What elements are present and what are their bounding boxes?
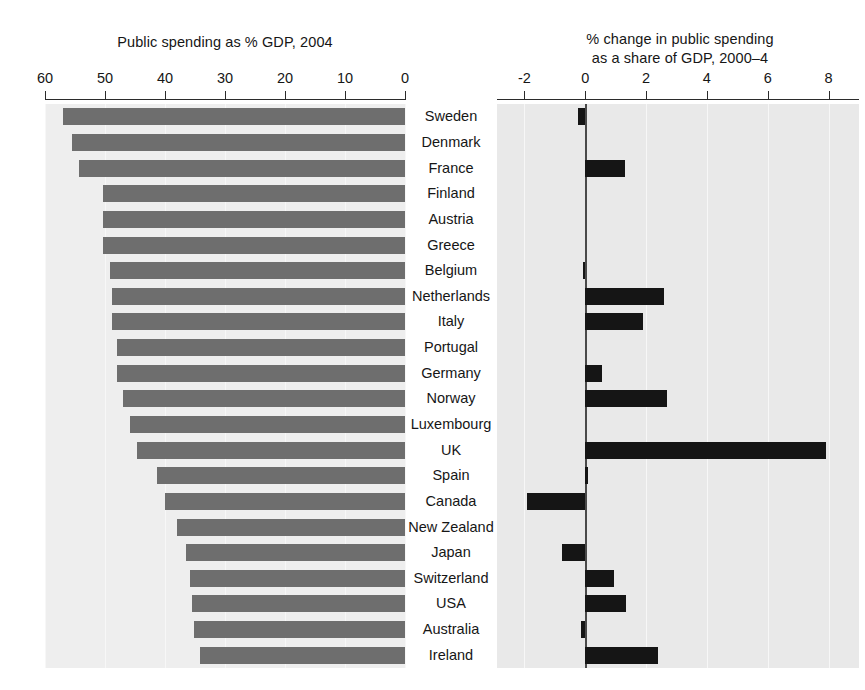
bar-left-spain xyxy=(157,467,405,484)
right-gridline xyxy=(829,104,830,668)
category-label-canada: Canada xyxy=(408,493,494,510)
bar-right-japan xyxy=(562,544,585,561)
left-tick-label: 20 xyxy=(277,70,293,86)
category-label-spain: Spain xyxy=(408,467,494,484)
category-label-italy: Italy xyxy=(408,313,494,330)
category-label-ireland: Ireland xyxy=(408,647,494,664)
category-label-usa: USA xyxy=(408,595,494,612)
right-tick-label: 2 xyxy=(642,70,650,86)
bar-right-italy xyxy=(585,313,643,330)
right-panel-title: % change in public spending as a share o… xyxy=(495,30,865,68)
right-gridline xyxy=(524,104,525,668)
category-axis-labels: SwedenDenmarkFranceFinlandAustriaGreeceB… xyxy=(408,104,494,668)
bar-left-denmark xyxy=(72,134,405,151)
bar-left-belgium xyxy=(110,262,405,279)
bar-right-germany xyxy=(585,365,602,382)
bar-left-norway xyxy=(123,390,405,407)
right-tick-label: 8 xyxy=(825,70,833,86)
right-gridline xyxy=(768,104,769,668)
category-label-uk: UK xyxy=(408,442,494,459)
bar-left-australia xyxy=(194,621,405,638)
bar-right-usa xyxy=(585,595,626,612)
category-label-denmark: Denmark xyxy=(408,134,494,151)
category-label-norway: Norway xyxy=(408,390,494,407)
bar-left-netherlands xyxy=(112,288,405,305)
right-tick-label: 0 xyxy=(581,70,589,86)
bar-left-portugal xyxy=(117,339,405,356)
bar-right-sweden xyxy=(578,108,586,125)
bar-right-switzerland xyxy=(585,570,614,587)
left-tick-mark xyxy=(345,91,346,100)
left-panel-title: Public spending as % GDP, 2004 xyxy=(30,33,420,52)
bar-left-usa xyxy=(192,595,405,612)
left-tick-mark xyxy=(285,91,286,100)
figure-root: Public spending as % GDP, 2004 % change … xyxy=(0,0,865,690)
category-label-australia: Australia xyxy=(408,621,494,638)
bar-left-germany xyxy=(117,365,405,382)
left-tick-mark xyxy=(405,91,406,100)
bar-right-spain xyxy=(585,467,587,484)
bar-left-greece xyxy=(103,237,405,254)
bar-right-norway xyxy=(585,390,667,407)
bar-left-uk xyxy=(137,442,405,459)
right-tick-mark xyxy=(646,91,647,100)
left-tick-mark xyxy=(165,91,166,100)
bar-right-belgium xyxy=(583,262,585,279)
right-tick-label: 4 xyxy=(703,70,711,86)
category-label-luxembourg: Luxembourg xyxy=(408,416,494,433)
right-tick-mark xyxy=(829,91,830,100)
bar-left-luxembourg xyxy=(130,416,405,433)
category-label-switzerland: Switzerland xyxy=(408,570,494,587)
right-tick-label: 6 xyxy=(764,70,772,86)
bar-right-australia xyxy=(581,621,586,638)
bar-left-france xyxy=(79,160,405,177)
right-gridline xyxy=(646,104,647,668)
bar-right-ireland xyxy=(585,647,658,664)
bar-left-japan xyxy=(186,544,405,561)
category-label-sweden: Sweden xyxy=(408,108,494,125)
left-tick-mark xyxy=(105,91,106,100)
left-tick-label: 60 xyxy=(37,70,53,86)
left-plot-area xyxy=(45,104,405,668)
bar-left-switzerland xyxy=(190,570,405,587)
bar-left-ireland xyxy=(200,647,405,664)
left-tick-label: 50 xyxy=(97,70,113,86)
left-tick-label: 40 xyxy=(157,70,173,86)
right-tick-mark xyxy=(768,91,769,100)
right-gridline xyxy=(707,104,708,668)
category-label-belgium: Belgium xyxy=(408,262,494,279)
right-tick-mark xyxy=(707,91,708,100)
bar-left-canada xyxy=(165,493,405,510)
category-label-netherlands: Netherlands xyxy=(408,288,494,305)
bar-left-new-zealand xyxy=(177,519,405,536)
left-gridline xyxy=(405,104,406,668)
left-tick-label: 30 xyxy=(217,70,233,86)
bar-left-sweden xyxy=(63,108,405,125)
bar-left-italy xyxy=(112,313,405,330)
left-gridline xyxy=(45,104,46,668)
right-tick-label: -2 xyxy=(518,70,531,86)
left-tick-label: 0 xyxy=(401,70,409,86)
bar-right-uk xyxy=(585,442,825,459)
right-plot-area xyxy=(497,104,859,668)
category-label-france: France xyxy=(408,160,494,177)
right-axis-line xyxy=(497,99,859,100)
bar-left-finland xyxy=(103,185,405,202)
left-tick-mark xyxy=(45,91,46,100)
right-tick-mark xyxy=(585,91,586,100)
category-label-austria: Austria xyxy=(408,211,494,228)
category-label-germany: Germany xyxy=(408,365,494,382)
category-label-portugal: Portugal xyxy=(408,339,494,356)
category-label-finland: Finland xyxy=(408,185,494,202)
category-label-greece: Greece xyxy=(408,237,494,254)
left-tick-label: 10 xyxy=(337,70,353,86)
bar-right-france xyxy=(585,160,625,177)
category-label-japan: Japan xyxy=(408,544,494,561)
bar-left-austria xyxy=(103,211,405,228)
left-tick-mark xyxy=(225,91,226,100)
category-label-new-zealand: New Zealand xyxy=(408,519,494,536)
right-tick-mark xyxy=(524,91,525,100)
bar-right-netherlands xyxy=(585,288,664,305)
bar-right-canada xyxy=(527,493,585,510)
